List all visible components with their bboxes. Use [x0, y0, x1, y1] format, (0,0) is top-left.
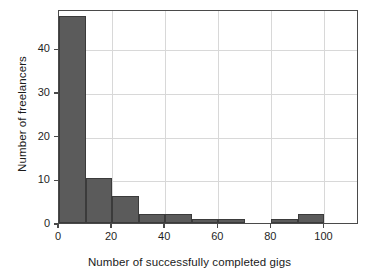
gridline-horizontal — [59, 94, 357, 95]
histogram-bar — [271, 219, 298, 223]
x-axis-label: Number of successfully completed gigs — [0, 256, 379, 268]
x-tick-mark — [57, 224, 58, 228]
gridline-horizontal — [59, 50, 357, 51]
gridline-vertical — [112, 11, 113, 223]
y-tick-mark — [54, 136, 58, 137]
histogram-bar — [298, 214, 325, 223]
x-tick-mark — [323, 224, 324, 228]
histogram-bar — [192, 219, 219, 223]
histogram-bar — [165, 214, 192, 223]
x-tick-label: 60 — [197, 230, 237, 242]
histogram-bar — [139, 214, 166, 223]
y-tick-mark — [54, 49, 58, 50]
gridline-vertical — [218, 11, 219, 223]
plot-area — [58, 10, 358, 224]
histogram-bar — [218, 219, 245, 223]
histogram-bar — [86, 178, 113, 223]
histogram-figure: 010203040 020406080100 Number of success… — [0, 0, 379, 280]
gridline-vertical — [324, 11, 325, 223]
gridline-horizontal — [59, 138, 357, 139]
gridline-vertical — [165, 11, 166, 223]
x-tick-label: 40 — [144, 230, 184, 242]
x-tick-label: 20 — [91, 230, 131, 242]
gridline-vertical — [271, 11, 272, 223]
x-tick-mark — [270, 224, 271, 228]
y-axis-label: Number of freelancers — [16, 4, 28, 224]
x-tick-label: 80 — [250, 230, 290, 242]
histogram-bar — [59, 16, 86, 223]
x-tick-label: 0 — [38, 230, 78, 242]
x-tick-mark — [217, 224, 218, 228]
x-tick-mark — [110, 224, 111, 228]
x-tick-mark — [163, 224, 164, 228]
histogram-bar — [112, 196, 139, 224]
y-tick-mark — [54, 180, 58, 181]
x-tick-label: 100 — [303, 230, 343, 242]
y-tick-mark — [54, 92, 58, 93]
